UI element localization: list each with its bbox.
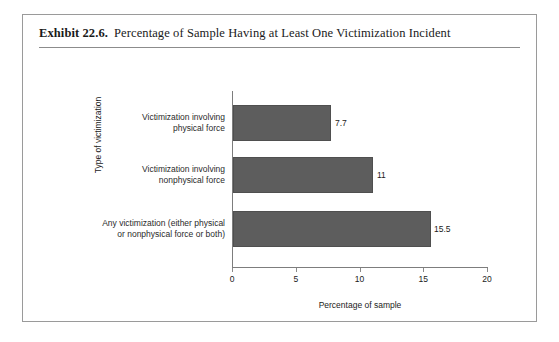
x-axis-tick bbox=[423, 268, 424, 272]
exhibit-title-text: Percentage of Sample Having at Least One… bbox=[114, 26, 450, 40]
x-axis-tick-label: 5 bbox=[293, 274, 298, 284]
bar-any-victimization[interactable] bbox=[233, 211, 431, 247]
title-divider bbox=[39, 47, 520, 48]
x-axis-tick-label: 20 bbox=[482, 274, 491, 284]
x-axis-tick bbox=[360, 268, 361, 272]
plot-area: Victimization involving physical force 7… bbox=[232, 91, 487, 268]
bar-value-label: 15.5 bbox=[434, 224, 451, 234]
bar-victimization-physical-force[interactable] bbox=[233, 105, 331, 141]
y-axis-title: Type of victimization bbox=[93, 80, 103, 190]
x-axis-tick-label: 0 bbox=[230, 274, 235, 284]
category-label: Victimization involving nonphysical forc… bbox=[142, 164, 225, 186]
category-label: Any victimization (either physical or no… bbox=[102, 218, 225, 240]
exhibit-header: Exhibit 22.6.Percentage of Sample Having… bbox=[23, 15, 536, 48]
exhibit-title: Exhibit 22.6.Percentage of Sample Having… bbox=[39, 26, 520, 41]
category-label-line: nonphysical force bbox=[142, 175, 225, 186]
category-label-line: or nonphysical force or both) bbox=[102, 229, 225, 240]
exhibit-frame: Exhibit 22.6.Percentage of Sample Having… bbox=[22, 14, 537, 322]
x-axis-title: Percentage of sample bbox=[232, 300, 488, 310]
x-axis-tick-label: 15 bbox=[419, 274, 428, 284]
category-label-line: Any victimization (either physical bbox=[102, 218, 225, 229]
category-label-line: Victimization involving bbox=[142, 112, 225, 123]
category-label: Victimization involving physical force bbox=[142, 112, 225, 134]
x-axis-tick-label: 10 bbox=[355, 274, 364, 284]
x-axis-tick bbox=[487, 268, 488, 272]
bar-value-label: 11 bbox=[377, 170, 386, 180]
category-label-line: Victimization involving bbox=[142, 164, 225, 175]
bar-chart: Type of victimization Victimization invo… bbox=[23, 55, 536, 321]
category-label-line: physical force bbox=[142, 123, 225, 134]
bar-value-label: 7.7 bbox=[335, 118, 347, 128]
x-axis-tick bbox=[296, 268, 297, 272]
exhibit-number: Exhibit 22.6. bbox=[39, 26, 108, 40]
x-axis-tick bbox=[232, 268, 233, 272]
bar-victimization-nonphysical-force[interactable] bbox=[233, 157, 373, 193]
